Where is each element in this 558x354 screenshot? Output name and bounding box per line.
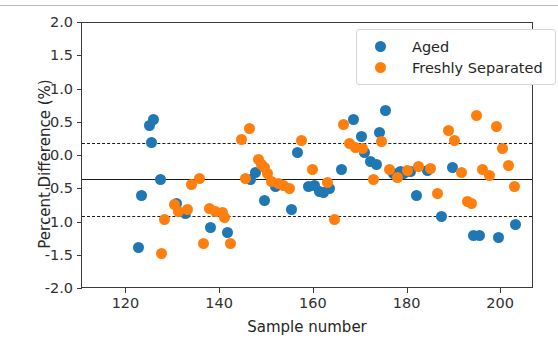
x-axis-tick-label: 160 — [283, 295, 343, 311]
x-axis-tick-mark — [500, 288, 501, 293]
legend-entry-freshly-separated: Freshly Separated — [367, 57, 543, 78]
y-axis-title: Percent Difference (%) — [36, 29, 54, 299]
x-axis-tick-label: 200 — [470, 295, 530, 311]
data-point — [296, 135, 307, 146]
x-axis-tick-label: 140 — [189, 295, 249, 311]
legend-entry-aged: Aged — [367, 36, 543, 57]
data-point — [474, 230, 485, 241]
y-axis-tick-mark — [77, 288, 82, 289]
data-point — [284, 183, 295, 194]
data-point — [509, 181, 520, 192]
data-point — [456, 167, 467, 178]
data-point — [148, 114, 159, 125]
data-point — [376, 136, 387, 147]
x-axis-tick-label: 180 — [377, 295, 437, 311]
data-point — [156, 248, 167, 259]
y-axis-tick-label: 2.0 — [22, 14, 73, 30]
data-point — [182, 204, 193, 215]
data-point — [368, 174, 379, 185]
data-point — [497, 143, 508, 154]
data-point — [329, 214, 340, 225]
legend-label-freshly-separated: Freshly Separated — [412, 60, 543, 76]
data-point — [510, 219, 521, 230]
data-point — [219, 212, 230, 223]
data-point — [338, 119, 349, 130]
legend: Aged Freshly Separated — [356, 29, 556, 85]
data-point — [484, 170, 495, 181]
data-point — [225, 238, 236, 249]
data-point — [491, 121, 502, 132]
data-point — [159, 214, 170, 225]
data-point — [307, 164, 318, 175]
data-point — [292, 147, 303, 158]
data-point — [425, 163, 436, 174]
data-point — [244, 123, 255, 134]
bland-altman-scatter-figure: 2.01.51.00.50.0-0.5-1.0-1.5-2.0 Percent … — [0, 0, 558, 354]
data-point — [443, 125, 454, 136]
x-axis-tick-mark — [219, 288, 220, 293]
data-point — [236, 134, 247, 145]
data-point — [286, 204, 297, 215]
data-point — [371, 159, 382, 170]
data-point — [348, 114, 359, 125]
data-point — [222, 227, 233, 238]
data-point — [155, 174, 166, 185]
data-point — [436, 211, 447, 222]
page-rule-divider — [0, 5, 558, 6]
x-axis-tick-mark — [407, 288, 408, 293]
data-point — [466, 198, 477, 209]
data-point — [356, 131, 367, 142]
data-point — [336, 164, 347, 175]
x-axis-tick-label: 120 — [95, 295, 155, 311]
data-point — [146, 137, 157, 148]
data-point — [259, 195, 270, 206]
data-point — [392, 172, 403, 183]
reference-line-lower-limit-of-agreement — [82, 216, 532, 217]
data-point — [449, 135, 460, 146]
data-point — [198, 238, 209, 249]
data-point — [380, 105, 391, 116]
data-point — [471, 110, 482, 121]
data-point — [357, 143, 368, 154]
data-point — [136, 190, 147, 201]
x-axis-tick-mark — [125, 288, 126, 293]
x-axis-title: Sample number — [81, 318, 533, 336]
data-point — [194, 173, 205, 184]
data-point — [432, 188, 443, 199]
legend-marker-freshly-separated-icon — [375, 62, 386, 73]
data-point — [133, 242, 144, 253]
data-point — [493, 232, 504, 243]
data-point — [205, 222, 216, 233]
x-axis-tick-mark — [313, 288, 314, 293]
data-point — [411, 190, 422, 201]
legend-marker-aged-icon — [375, 41, 386, 52]
data-point — [503, 160, 514, 171]
legend-label-aged: Aged — [412, 39, 449, 55]
